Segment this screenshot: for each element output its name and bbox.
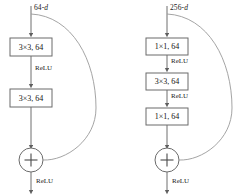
bottleneck-conv2-label: 3×3, 64 bbox=[146, 77, 188, 86]
bottleneck-input-dim-label: 256-d bbox=[170, 4, 188, 12]
bottleneck-output-relu-label: ReLU bbox=[172, 177, 189, 185]
bottleneck-relu-1-label: ReLU bbox=[171, 57, 188, 65]
basic-conv1-label: 3×3, 64 bbox=[10, 43, 52, 52]
basic-output-relu-label: ReLU bbox=[36, 177, 53, 185]
bottleneck-relu-2-label: ReLU bbox=[171, 92, 188, 100]
bottleneck-conv1-label: 1×1, 64 bbox=[146, 42, 188, 51]
residual-block-diagram: 64-d 3×3, 64 ReLU 3×3, 64 ReLU 256-d 1×1… bbox=[0, 0, 241, 196]
basic-relu-1-label: ReLU bbox=[35, 64, 52, 72]
bottleneck-conv3-label: 1×1, 64 bbox=[146, 112, 188, 121]
basic-input-dim-label: 64-d bbox=[34, 4, 48, 12]
basic-skip-connection bbox=[31, 14, 96, 160]
basic-conv2-label: 3×3, 64 bbox=[10, 94, 52, 103]
bottleneck-block-graphics bbox=[146, 6, 232, 192]
